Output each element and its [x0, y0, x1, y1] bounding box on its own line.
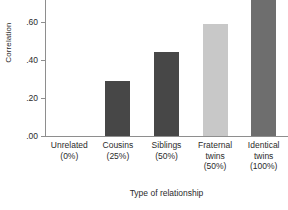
y-axis-title: Correlation	[4, 7, 13, 79]
x-category-fraternal-twins: Fraternaltwins(50%)	[191, 140, 240, 172]
y-axis-line	[45, 0, 46, 137]
bar-fraternal-twins	[203, 24, 228, 136]
bar-cousins	[105, 81, 130, 136]
x-category-line: (100%)	[239, 161, 288, 172]
x-category-unrelated: Unrelated(0%)	[45, 140, 94, 161]
x-category-line: (0%)	[45, 151, 94, 162]
x-category-line: (50%)	[191, 161, 240, 172]
x-category-line: (25%)	[94, 151, 143, 162]
x-axis-line	[45, 136, 288, 137]
y-tick-mark	[41, 22, 46, 23]
x-category-identical-twins: Identicaltwins(100%)	[239, 140, 288, 172]
x-category-line: twins	[191, 151, 240, 162]
plot-area: .00 .20 .40 .60	[45, 0, 288, 137]
x-category-siblings: Siblings(50%)	[142, 140, 191, 161]
bar-identical-twins	[251, 0, 276, 136]
x-category-line: Identical	[239, 140, 288, 151]
x-category-cousins: Cousins(25%)	[94, 140, 143, 161]
y-tick-label: .40	[26, 55, 38, 65]
x-category-line: twins	[239, 151, 288, 162]
x-category-line: (50%)	[142, 151, 191, 162]
bar-siblings	[154, 52, 179, 136]
x-category-labels: Unrelated(0%) Cousins(25%) Siblings(50%)…	[45, 140, 288, 185]
x-category-line: Fraternal	[191, 140, 240, 151]
y-tick-label: .60	[26, 17, 38, 27]
x-axis-title: Type of relationship	[45, 188, 288, 198]
y-tick-mark	[41, 136, 46, 137]
correlation-bar-chart: Correlation .00 .20 .40 .60 Unrelated(0%…	[0, 0, 288, 210]
y-tick-mark	[41, 60, 46, 61]
x-category-line: Unrelated	[45, 140, 94, 151]
x-category-line: Cousins	[94, 140, 143, 151]
y-tick-mark	[41, 98, 46, 99]
x-category-line: Siblings	[142, 140, 191, 151]
y-tick-label: .00	[26, 131, 38, 141]
y-tick-label: .20	[26, 93, 38, 103]
